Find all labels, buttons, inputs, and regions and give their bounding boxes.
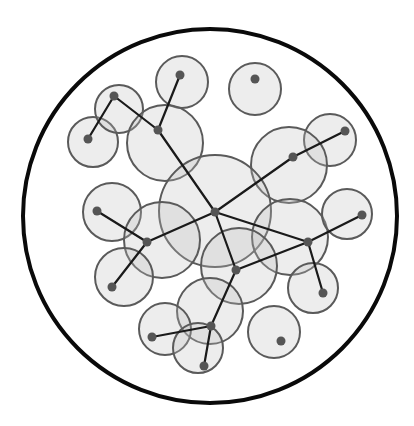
node-n4 — [154, 126, 163, 135]
node-n13 — [232, 266, 241, 275]
node-n1 — [84, 135, 93, 144]
node-n15 — [319, 289, 328, 298]
node-n12 — [304, 238, 313, 247]
node-n5 — [251, 75, 260, 84]
node-n10 — [143, 238, 152, 247]
disk-n19 — [248, 306, 300, 358]
disk-n3 — [156, 56, 208, 108]
node-n8 — [211, 208, 220, 217]
node-n2 — [110, 92, 119, 101]
node-n16 — [207, 322, 216, 331]
node-n14 — [358, 211, 367, 220]
node-n6 — [341, 127, 350, 136]
node-n11 — [108, 283, 117, 292]
disk-graph-diagram — [0, 0, 414, 426]
disk-n5 — [229, 63, 281, 115]
node-n3 — [176, 71, 185, 80]
node-n18 — [200, 362, 209, 371]
disk-n18 — [173, 323, 223, 373]
disk-n11 — [95, 248, 153, 306]
node-n17 — [148, 333, 157, 342]
node-n7 — [289, 153, 298, 162]
node-n19 — [277, 337, 286, 346]
disk-n15 — [288, 263, 338, 313]
node-n9 — [93, 207, 102, 216]
